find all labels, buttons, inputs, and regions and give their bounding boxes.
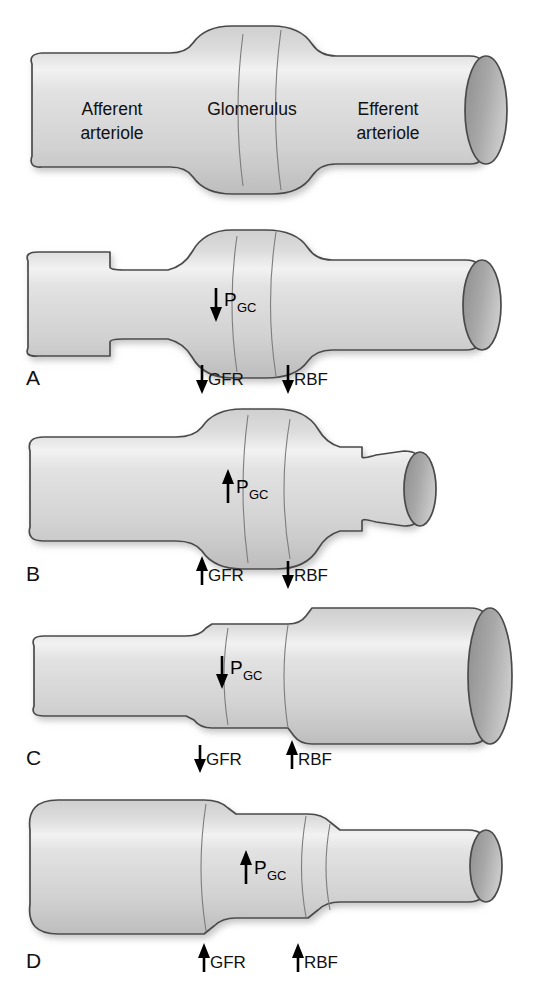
rbf-label: RBF <box>294 566 328 585</box>
panel-b: P GC B GFR RBF <box>0 393 536 588</box>
rbf-indicator-a: RBF <box>282 365 328 394</box>
glomerulus-label: Glomerulus <box>207 99 297 119</box>
pgc-subscript: GC <box>243 668 263 683</box>
gfr-label: GFR <box>210 953 246 972</box>
arrow-up-icon <box>292 943 304 972</box>
rbf-label: RBF <box>294 370 328 389</box>
efferent-lumen-opening <box>470 830 502 902</box>
efferent-lumen-opening <box>463 260 501 350</box>
efferent-label-line2: arteriole <box>356 123 419 143</box>
pgc-subscript: GC <box>267 868 287 883</box>
panel-letter-d: D <box>26 949 41 972</box>
panel-letter-a: A <box>26 366 40 389</box>
panel-a: P GC A GFR RBF <box>0 208 536 393</box>
efferent-label-line1: Efferent <box>358 99 419 119</box>
panel-letter-c: C <box>26 746 41 769</box>
panel-letter-b: B <box>26 562 40 585</box>
pgc-subscript: GC <box>249 487 269 502</box>
efferent-lumen-opening <box>465 56 507 164</box>
gfr-indicator-d: GFR <box>198 943 246 972</box>
panel-reference: Afferent arteriole Glomerulus Efferent a… <box>0 18 536 198</box>
rbf-indicator-b: RBF <box>282 561 328 589</box>
rbf-indicator-d: RBF <box>292 943 338 972</box>
panel-c: P GC C GFR RBF <box>0 588 536 773</box>
arrow-up-icon <box>286 740 298 769</box>
pgc-subscript: GC <box>237 300 257 315</box>
gfr-label: GFR <box>206 750 242 769</box>
pgc-symbol: P <box>230 657 243 678</box>
glomerular-hemodynamics-figure: Afferent arteriole Glomerulus Efferent a… <box>0 0 536 990</box>
rbf-label: RBF <box>298 750 332 769</box>
rbf-label: RBF <box>304 953 338 972</box>
arrow-up-icon <box>196 556 208 585</box>
panel-d: P GC D GFR RBF <box>0 768 536 978</box>
efferent-lumen-opening <box>468 608 512 744</box>
vessel-body-b <box>29 409 420 569</box>
pgc-symbol: P <box>224 289 237 310</box>
gfr-label: GFR <box>208 566 244 585</box>
afferent-label-line1: Afferent <box>82 99 143 119</box>
gfr-indicator-a: GFR <box>196 365 244 394</box>
arrow-up-icon <box>198 943 210 972</box>
efferent-lumen-opening <box>404 452 436 526</box>
gfr-label: GFR <box>208 370 244 389</box>
pgc-symbol: P <box>236 476 249 497</box>
afferent-label-line2: arteriole <box>80 123 143 143</box>
pgc-symbol: P <box>254 857 267 878</box>
